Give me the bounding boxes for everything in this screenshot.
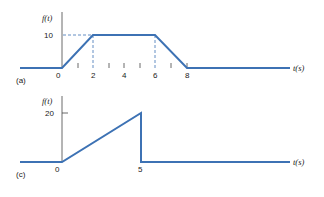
y-tick-label-10: 10 <box>44 31 53 40</box>
x-tick-label-6: 6 <box>153 71 158 80</box>
x-tick-label-0: 0 <box>56 71 61 80</box>
sawtooth-waveform <box>20 113 290 162</box>
x-tick-label-2: 2 <box>91 71 96 80</box>
x-axis-label-a: t(s) <box>293 63 305 73</box>
panel-label-a: (a) <box>16 76 26 85</box>
x-axis-label-c: t(s) <box>293 157 305 167</box>
x-tick-label-5: 5 <box>138 165 143 174</box>
x-tick-label-4: 4 <box>122 71 127 80</box>
panel-label-c: (c) <box>16 170 26 179</box>
figure: f(t) 10 0 2 4 6 8 t(s) (a) f(t) 20 <box>0 0 324 197</box>
y-tick-label-20: 20 <box>45 109 54 118</box>
y-axis-label-a: f(t) <box>42 13 53 23</box>
y-axis-label-c: f(t) <box>42 96 53 106</box>
x-tick-label-0: 0 <box>55 165 60 174</box>
panel-c: f(t) 20 0 5 t(s) (c) <box>16 96 305 179</box>
x-tick-label-8: 8 <box>185 71 190 80</box>
panel-a: f(t) 10 0 2 4 6 8 t(s) (a) <box>16 12 305 85</box>
